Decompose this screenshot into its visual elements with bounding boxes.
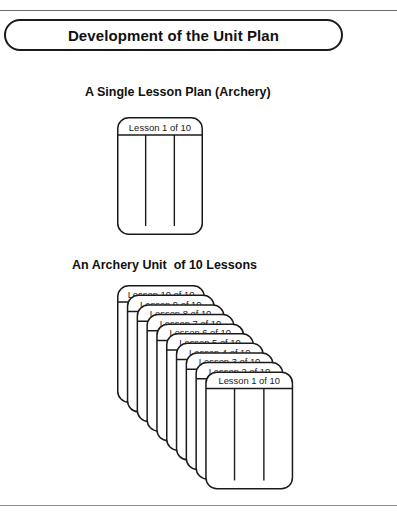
- stack-card-label: Lesson 9 of 10: [140, 299, 202, 310]
- bottom-divider-rule: [0, 505, 397, 506]
- stack-card-label: Lesson 10 of 10: [128, 289, 195, 300]
- stack-card-label: Lesson 7 of 10: [160, 318, 222, 329]
- stack-card-label: Lesson 5 of 10: [179, 337, 241, 348]
- diagram-page: Development of the Unit Plan A Single Le…: [0, 0, 397, 514]
- single-lesson-card-outline: [118, 118, 203, 235]
- page-title-pill: Development of the Unit Plan: [4, 19, 343, 51]
- stack-card-outline: [157, 324, 244, 441]
- stack-card-outline: [167, 334, 254, 451]
- stack-card-outline: [196, 363, 283, 480]
- stack-card-outline: [186, 353, 273, 470]
- stack-card-label: Lesson 2 of 10: [209, 366, 271, 377]
- lesson-plan-diagram: Lesson 1 of 10 Lesson 10 of 10Lesson 9 o…: [0, 0, 397, 514]
- stack-card-outline: [206, 372, 293, 489]
- stack-card-outline: [177, 343, 263, 460]
- stack-card: Lesson 10 of 10: [118, 286, 205, 403]
- single-lesson-card-label: Lesson 1 of 10: [129, 122, 191, 133]
- stack-card: Lesson 7 of 10: [147, 315, 234, 432]
- stack-card-outline: [118, 286, 205, 403]
- stack-card-label: Lesson 8 of 10: [150, 308, 212, 319]
- stack-card-label: Lesson 4 of 10: [189, 347, 251, 358]
- top-divider-rule: [0, 10, 397, 11]
- stack-card-outline: [128, 295, 215, 412]
- stack-card: Lesson 8 of 10: [137, 305, 224, 422]
- page-title: Development of the Unit Plan: [68, 27, 279, 44]
- stack-card-outline: [147, 315, 234, 432]
- single-lesson-heading: A Single Lesson Plan (Archery): [85, 85, 271, 99]
- stack-card-outline: [137, 305, 224, 422]
- stack-card: Lesson 3 of 10: [186, 353, 273, 470]
- stack-card: Lesson 9 of 10: [128, 295, 215, 412]
- unit-lesson-stack: Lesson 10 of 10Lesson 9 of 10Lesson 8 of…: [118, 286, 293, 489]
- single-lesson-card: Lesson 1 of 10: [118, 118, 203, 235]
- stack-card-label: Lesson 1 of 10: [218, 375, 280, 386]
- stack-card: Lesson 5 of 10: [167, 334, 254, 451]
- stack-card: Lesson 4 of 10: [177, 343, 263, 460]
- stack-card: Lesson 6 of 10: [157, 324, 244, 441]
- stack-card: Lesson 1 of 10: [206, 372, 293, 489]
- unit-lessons-heading: An Archery Unit of 10 Lessons: [72, 258, 257, 272]
- stack-card: Lesson 2 of 10: [196, 363, 283, 480]
- single-lesson-card: Lesson 1 of 10: [118, 118, 203, 235]
- stack-card-label: Lesson 3 of 10: [199, 356, 261, 367]
- stack-card-label: Lesson 6 of 10: [169, 327, 231, 338]
